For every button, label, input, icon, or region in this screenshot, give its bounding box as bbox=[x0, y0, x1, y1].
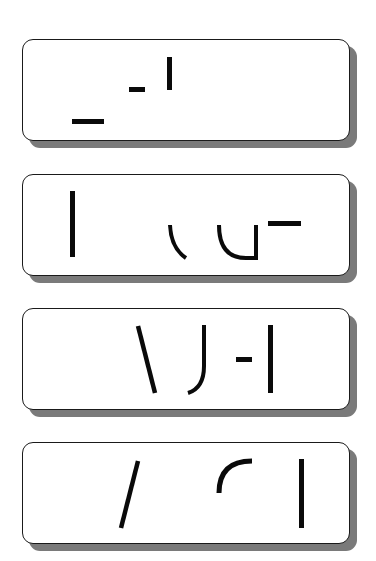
j-hook-fragment bbox=[188, 325, 204, 393]
vertical-bar-fragment bbox=[167, 57, 172, 90]
panel-1-strokes bbox=[22, 39, 352, 143]
glyph-fragment-puzzle bbox=[0, 0, 376, 561]
panel-3-strokes bbox=[22, 308, 352, 412]
vertical-bar-fragment bbox=[268, 325, 273, 393]
top-bar-fragment bbox=[268, 221, 301, 226]
vertical-bar-fragment bbox=[299, 459, 304, 528]
backslash-fragment bbox=[138, 326, 155, 393]
slash-fragment bbox=[121, 461, 138, 528]
panel-2-strokes bbox=[22, 174, 352, 278]
fragment-panel-2 bbox=[22, 174, 350, 276]
fragment-panel-3 bbox=[22, 308, 350, 410]
u-curve-fragment bbox=[219, 225, 256, 258]
short-dash-fragment bbox=[236, 357, 252, 362]
short-dash-fragment bbox=[129, 87, 145, 92]
long-dash-fragment bbox=[72, 119, 104, 124]
left-arc-fragment bbox=[170, 225, 186, 258]
panel-4-strokes bbox=[22, 442, 352, 546]
fragment-panel-4 bbox=[22, 442, 350, 544]
fragment-panel-1 bbox=[22, 39, 350, 141]
vertical-bar-fragment bbox=[70, 191, 75, 257]
top-left-arc-fragment bbox=[219, 461, 252, 493]
